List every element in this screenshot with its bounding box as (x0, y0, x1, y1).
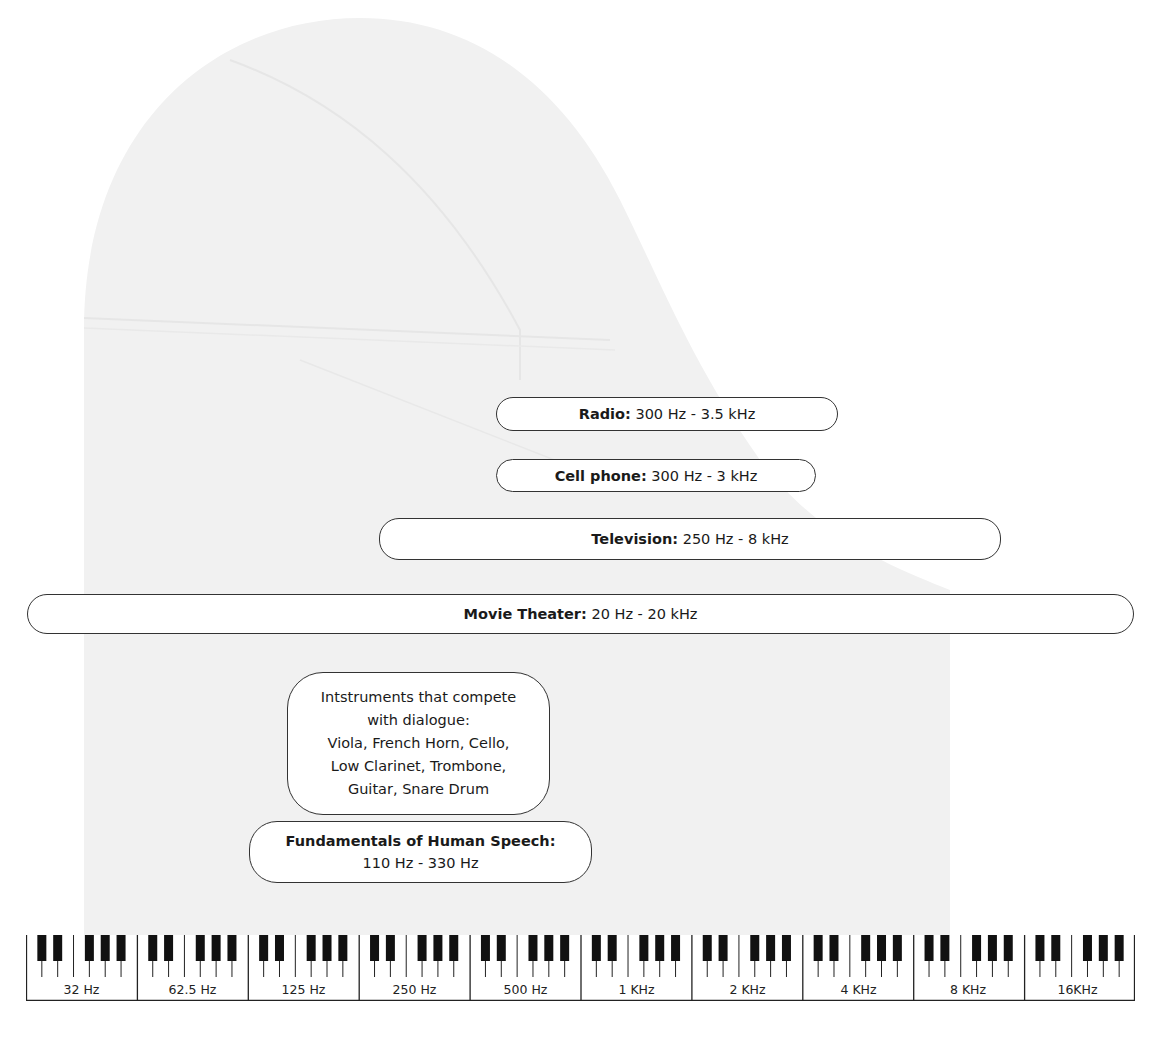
television-range-pill: Television: 250 Hz - 8 kHz (379, 518, 1001, 560)
instruments-line: Viola, French Horn, Cello, (328, 732, 510, 755)
instruments-line: Intstruments that compete (321, 686, 516, 709)
piano-keyboard-axis: 32 Hz 62.5 Hz 125 Hz 250 Hz 500 Hz 1 KHz… (26, 935, 1135, 1001)
octave-label: 1 KHz (581, 982, 692, 997)
octave-label: 250 Hz (359, 982, 470, 997)
octave-label: 62.5 Hz (137, 982, 248, 997)
cell-phone-label: Cell phone (555, 468, 641, 484)
radio-range: 300 Hz - 3.5 kHz (635, 406, 755, 422)
cell-phone-range: 300 Hz - 3 kHz (651, 468, 757, 484)
movie-theater-range: 20 Hz - 20 kHz (591, 606, 697, 622)
human-speech-range: 110 Hz - 330 Hz (362, 852, 478, 874)
octave-label: 500 Hz (470, 982, 581, 997)
instruments-box: Intstruments that compete with dialogue:… (287, 672, 550, 815)
radio-label: Radio (579, 406, 625, 422)
instruments-line: with dialogue: (367, 709, 470, 732)
television-label: Television (591, 531, 672, 547)
octave-label: 8 KHz (914, 982, 1022, 997)
instruments-line: Guitar, Snare Drum (348, 778, 489, 801)
octave-label: 16KHz (1022, 982, 1133, 997)
television-range: 250 Hz - 8 kHz (683, 531, 789, 547)
instruments-line: Low Clarinet, Trombone, (331, 755, 506, 778)
movie-theater-label: Movie Theater (464, 606, 581, 622)
cell-phone-range-pill: Cell phone: 300 Hz - 3 kHz (496, 459, 816, 492)
movie-theater-range-pill: Movie Theater: 20 Hz - 20 kHz (27, 594, 1134, 634)
octave-label: 2 KHz (692, 982, 803, 997)
human-speech-box: Fundamentals of Human Speech: 110 Hz - 3… (249, 821, 592, 883)
octave-label: 125 Hz (248, 982, 359, 997)
radio-range-pill: Radio: 300 Hz - 3.5 kHz (496, 397, 838, 431)
human-speech-title: Fundamentals of Human Speech: (286, 830, 556, 852)
octave-label: 4 KHz (803, 982, 914, 997)
octave-label: 32 Hz (26, 982, 137, 997)
